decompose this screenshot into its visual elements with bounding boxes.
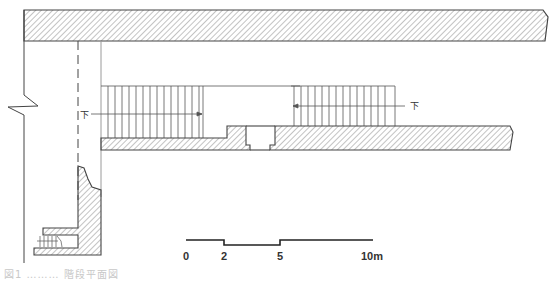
small-stair xyxy=(37,236,62,247)
left-stair xyxy=(91,86,300,138)
scale-tick-10m: 10m xyxy=(361,250,383,262)
scale-bar xyxy=(186,240,373,245)
left-stair-direction-label: 下 xyxy=(80,110,89,120)
scale-tick-5: 5 xyxy=(277,250,283,262)
top-wall xyxy=(24,10,548,41)
right-stair xyxy=(291,86,405,126)
scale-tick-0: 0 xyxy=(183,250,189,262)
figure-caption: 図1 ……… 階段平面図 xyxy=(4,266,119,281)
middle-slab xyxy=(101,126,513,150)
left-stair-treads xyxy=(108,86,203,138)
lower-left-structure xyxy=(34,166,101,255)
left-boundary-line xyxy=(8,10,38,263)
scale-tick-2: 2 xyxy=(221,250,227,262)
right-stair-direction-label: 下 xyxy=(410,101,419,111)
